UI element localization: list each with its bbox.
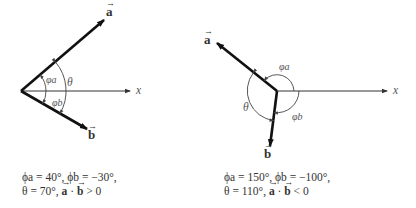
vector-b-label: b [88, 128, 95, 142]
right-caption: ϕa = 150°, ϕb = −100°, θ = 110°, a · b <… [224, 170, 330, 198]
caption-line-2: θ = 110°, a · b < 0 [224, 184, 330, 198]
vector-a-label: a [106, 5, 113, 19]
vector-b-label: b [264, 147, 271, 161]
x-axis-label: x [136, 83, 141, 97]
vector-a-label: a [204, 33, 211, 47]
phi-a-label: φa [46, 73, 57, 87]
vector-a [217, 43, 277, 91]
theta-label: θ [243, 100, 249, 114]
vector-a [21, 20, 104, 91]
caption-line-2: θ = 70°, a · b > 0 [22, 184, 117, 198]
phi-b-arc [43, 91, 46, 104]
x-axis-label: x [393, 83, 398, 97]
left-caption: ϕa = 40°, ϕb = −30°, θ = 70°, a · b > 0 [22, 170, 117, 198]
right-figure [217, 43, 387, 146]
phi-b-label: φb [52, 96, 63, 110]
theta-label: θ [67, 75, 73, 89]
phi-b-label: φb [292, 110, 303, 124]
left-figure [21, 20, 130, 129]
theta-arc [247, 73, 273, 121]
phi-a-label: φa [279, 60, 290, 74]
